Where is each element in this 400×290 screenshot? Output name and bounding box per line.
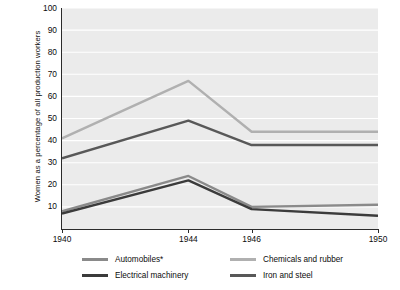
y-axis-tick-labels: 100908070605040302010 [0, 0, 57, 240]
x-tick-label: 1940 [32, 234, 92, 244]
y-tick-label: 20 [1, 180, 57, 189]
legend-swatch-chemicals-and-rubber [230, 258, 256, 261]
x-tick-mark [378, 230, 379, 233]
chart-legend: Automobiles* Electrical machinery Chemic… [82, 252, 382, 286]
y-tick-label: 90 [1, 26, 57, 35]
x-axis-spine [61, 229, 379, 230]
x-tick-label: 1944 [158, 234, 218, 244]
legend-swatch-iron-and-steel [230, 274, 256, 277]
legend-swatch-automobiles [82, 258, 108, 261]
legend-label-iron-and-steel: Iron and steel [263, 271, 313, 280]
series-line [62, 121, 378, 159]
legend-item-iron-and-steel[interactable]: Iron and steel [230, 268, 313, 283]
y-tick-label: 100 [1, 4, 57, 13]
y-tick-label: 50 [1, 114, 57, 123]
legend-swatch-electrical-machinery [82, 274, 108, 277]
x-tick-label: 1950 [348, 234, 400, 244]
plot-area [62, 8, 378, 229]
legend-label-chemicals-and-rubber: Chemicals and rubber [263, 255, 343, 264]
legend-item-electrical-machinery[interactable]: Electrical machinery [82, 268, 188, 283]
series-line [62, 81, 378, 138]
y-tick-label: 30 [1, 158, 57, 167]
y-tick-label: 70 [1, 70, 57, 79]
y-tick-label: 80 [1, 48, 57, 57]
legend-item-automobiles[interactable]: Automobiles* [82, 252, 163, 267]
x-tick-label: 1946 [222, 234, 282, 244]
y-axis-spine [61, 8, 62, 230]
x-tick-mark [252, 230, 253, 233]
legend-item-chemicals-and-rubber[interactable]: Chemicals and rubber [230, 252, 343, 267]
y-tick-label: 60 [1, 92, 57, 101]
y-tick-label: 10 [1, 202, 57, 211]
y-tick-label: 40 [1, 136, 57, 145]
x-tick-mark [188, 230, 189, 233]
x-tick-mark [62, 230, 63, 233]
chart-figure: Women as a percentage of all production … [0, 0, 400, 290]
plot-lines [62, 8, 378, 229]
legend-label-automobiles: Automobiles* [115, 255, 163, 264]
legend-label-electrical-machinery: Electrical machinery [115, 271, 188, 280]
